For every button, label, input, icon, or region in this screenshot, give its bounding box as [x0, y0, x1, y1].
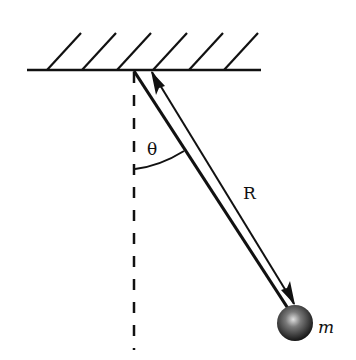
- pendulum-rod: [134, 71, 289, 310]
- pendulum-diagram: θ R m: [0, 0, 356, 360]
- length-arrow: [152, 72, 294, 304]
- angle-label: θ: [147, 139, 157, 159]
- ceiling-support: [27, 33, 261, 70]
- angle-arc: [135, 151, 184, 169]
- pendulum-bob: [277, 305, 313, 341]
- mass-label: m: [318, 317, 334, 337]
- length-label: R: [243, 183, 257, 203]
